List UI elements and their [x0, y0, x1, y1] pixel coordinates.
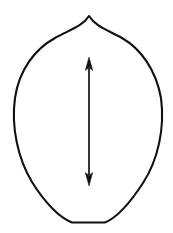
diagram-background	[0, 0, 173, 233]
leaf-outline-diagram	[0, 0, 173, 233]
diagram-canvas	[0, 0, 173, 233]
